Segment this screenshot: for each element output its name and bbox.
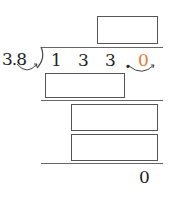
division-bar (41, 47, 163, 48)
quotient-answer-box[interactable] (97, 16, 158, 44)
difference-1-answer-box[interactable] (71, 104, 158, 131)
division-bracket-icon (34, 47, 44, 69)
subtraction-line-2 (41, 163, 163, 164)
dividend-digit-1: 1 (51, 52, 62, 69)
product-2-answer-box[interactable] (71, 134, 158, 161)
remainder: 0 (139, 169, 150, 186)
product-1-answer-box[interactable] (45, 73, 125, 98)
dividend-digit-3: 3 (105, 52, 116, 69)
decimal-shift-arc-icon (127, 63, 157, 75)
subtraction-line-1 (41, 100, 163, 101)
dividend-digit-2: 3 (78, 52, 89, 69)
